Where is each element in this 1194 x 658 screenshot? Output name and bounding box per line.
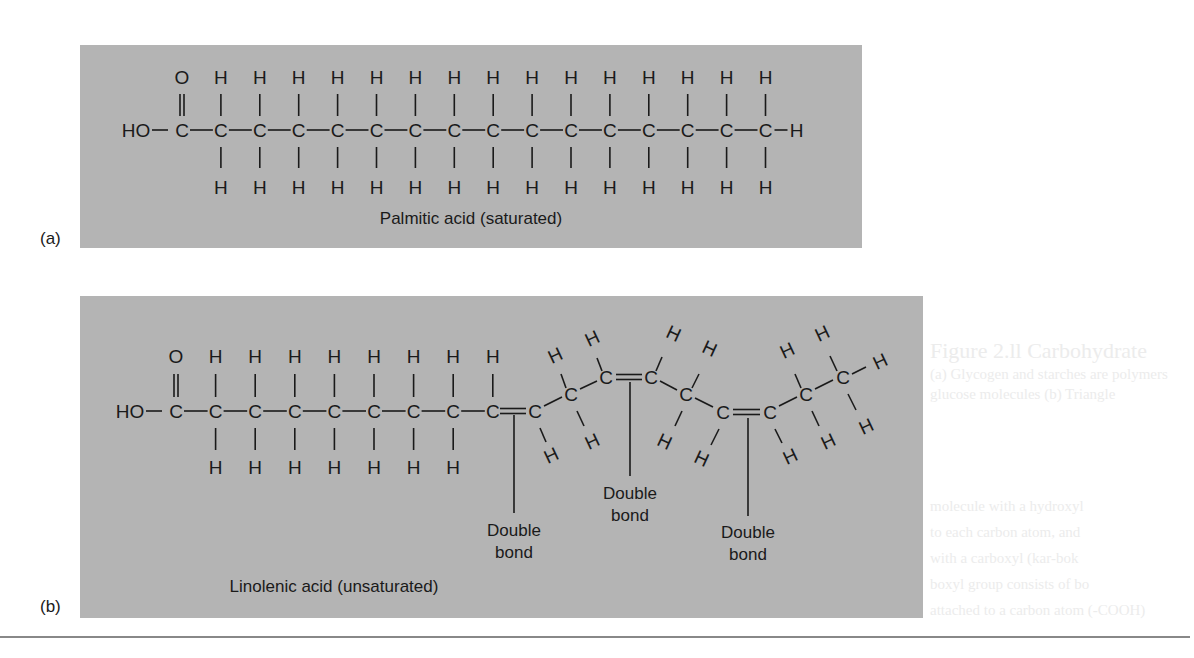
- svg-text:bond: bond: [495, 543, 533, 562]
- atom-label: C: [763, 402, 777, 423]
- palmitic-acid-structure: HOCOCHHCHHCHHCHHCHHCHHCHHCHHCHHCHHCHHCHH…: [122, 67, 804, 198]
- atom-label: H: [486, 177, 500, 198]
- atom-label: C: [603, 120, 617, 141]
- svg-text:bond: bond: [729, 545, 767, 564]
- bond-line: [660, 381, 677, 390]
- atom-label: C: [328, 401, 342, 422]
- atom-label: H: [681, 67, 695, 88]
- linolenic-acid-structure: HOCOCHHCHHCHHCHHCHHCHHCHHCHCCCCCCCCCHHHH…: [116, 321, 891, 478]
- atom-label: C: [486, 120, 500, 141]
- atom-label: H: [582, 326, 603, 351]
- atom-label: C: [681, 120, 695, 141]
- atom-label: C: [447, 120, 461, 141]
- atom-label: H: [328, 457, 342, 478]
- atom-label: H: [582, 429, 603, 454]
- fatty-acid-structures: HOCOCHHCHHCHHCHHCHHCHHCHHCHHCHHCHHCHHCHH…: [0, 0, 1194, 658]
- double-bond-callout-3: Double bond: [721, 418, 775, 564]
- atom-label: C: [407, 401, 421, 422]
- atom-label: H: [331, 177, 345, 198]
- atom-label: C: [525, 120, 539, 141]
- atom-label: C: [169, 401, 183, 422]
- atom-label: H: [564, 67, 578, 88]
- atom-label: H: [654, 429, 675, 454]
- atom-label: H: [545, 343, 566, 368]
- atom-label: O: [169, 346, 184, 367]
- atom-label: H: [370, 67, 384, 88]
- bond-line: [812, 411, 819, 426]
- atom-label: H: [603, 177, 617, 198]
- atom-label: H: [564, 177, 578, 198]
- atom-label: C: [175, 120, 189, 141]
- double-bond-callout-2: Double bond: [603, 382, 657, 525]
- atom-label: H: [409, 67, 423, 88]
- atom-label: H: [720, 177, 734, 198]
- atom-label: H: [777, 338, 798, 363]
- atom-label: H: [525, 67, 539, 88]
- atom-label: H: [681, 177, 695, 198]
- atom-label: H: [447, 177, 461, 198]
- bond-line: [795, 374, 801, 388]
- atom-label: H: [642, 177, 656, 198]
- atom-label: H: [790, 120, 804, 141]
- atom-label: C: [409, 120, 423, 141]
- atom-label: H: [253, 67, 267, 88]
- bond-line: [779, 397, 797, 406]
- atom-label: C: [214, 120, 228, 141]
- bond-line: [580, 381, 597, 389]
- atom-label: H: [331, 67, 345, 88]
- atom-label: H: [818, 429, 839, 454]
- atom-label: C: [679, 384, 693, 405]
- atom-label: H: [486, 346, 500, 367]
- atom-label: H: [292, 177, 306, 198]
- atom-label: H: [870, 349, 891, 374]
- atom-label: H: [209, 346, 223, 367]
- atom-label: H: [288, 346, 302, 367]
- atom-label: H: [642, 67, 656, 88]
- palmitic-acid-caption: Palmitic acid (saturated): [380, 209, 562, 228]
- bond-line: [675, 411, 682, 426]
- double-bond-callout-1: Double bond: [487, 415, 541, 562]
- svg-text:Double: Double: [603, 484, 657, 503]
- atom-label: H: [248, 457, 262, 478]
- atom-label: C: [528, 401, 542, 422]
- atom-label: H: [447, 67, 461, 88]
- atom-label: H: [407, 346, 421, 367]
- atom-label: H: [699, 336, 720, 361]
- atom-label: C: [370, 120, 384, 141]
- atom-label: H: [367, 457, 381, 478]
- atom-label: H: [248, 346, 262, 367]
- atom-label: C: [759, 120, 773, 141]
- atom-label: H: [603, 67, 617, 88]
- bond-line: [815, 380, 833, 389]
- atom-label: C: [292, 120, 306, 141]
- atom-label: H: [541, 443, 562, 468]
- atom-label: H: [812, 321, 833, 346]
- atom-label: H: [409, 177, 423, 198]
- svg-text:bond: bond: [611, 506, 649, 525]
- atom-label: H: [370, 177, 384, 198]
- atom-label: H: [663, 321, 684, 346]
- bond-line: [775, 429, 782, 443]
- atom-label: C: [209, 401, 223, 422]
- atom-label: H: [328, 346, 342, 367]
- atom-label: C: [836, 367, 850, 388]
- atom-label: C: [331, 120, 345, 141]
- atom-label: H: [759, 67, 773, 88]
- atom-label: H: [486, 67, 500, 88]
- atom-label: H: [720, 67, 734, 88]
- atom-label: H: [407, 457, 421, 478]
- atom-label: H: [214, 177, 228, 198]
- atom-label: HO: [122, 120, 151, 141]
- atom-label: H: [288, 457, 302, 478]
- atom-label: H: [446, 346, 460, 367]
- bond-line: [848, 394, 856, 410]
- atom-label: H: [446, 457, 460, 478]
- atom-label: C: [248, 401, 262, 422]
- atom-label: H: [759, 177, 773, 198]
- atom-label: C: [486, 401, 500, 422]
- atom-label: H: [292, 67, 306, 88]
- bond-line: [656, 357, 662, 371]
- svg-text:Double: Double: [487, 521, 541, 540]
- svg-text:Double: Double: [721, 523, 775, 542]
- atom-label: C: [288, 401, 302, 422]
